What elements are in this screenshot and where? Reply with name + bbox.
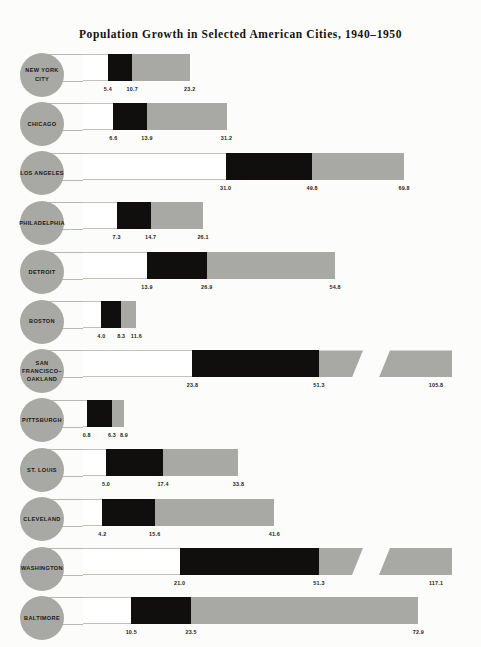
bar-segment-dark [87,400,112,427]
bar-segment-dark [147,252,207,279]
value-label: 6.6 [109,135,117,141]
city-label: DETROIT [29,268,56,276]
bar-segment-light [112,400,124,427]
bar-segment-light-before-break [319,548,363,575]
value-label: 49.8 [306,185,317,191]
value-label: 72.9 [413,629,424,635]
bar-segment-base [83,597,131,624]
bar-segment-light [207,252,335,279]
city-circle: NEW YORK CITY [20,53,64,97]
bar-segment-base [83,350,192,377]
bar-segment-light [163,449,238,476]
value-label: 13.9 [141,135,152,141]
city-label: PITTSBURGH [22,416,62,424]
value-label: 8.3 [117,333,125,339]
bar-segment-base [83,548,180,575]
city-label: CHICAGO [28,120,57,128]
city-circle: BALTIMORE [20,596,64,640]
value-label: 31.0 [220,185,231,191]
bar-segment-light-after-break [379,350,452,377]
value-label: 26.9 [201,284,212,290]
bar-segment-light [312,153,404,180]
bar-segment-base [83,301,101,328]
city-label: SAN FRANCISCO– OAKLAND [20,359,64,383]
value-label: 33.8 [233,481,244,487]
bar-segment-dark [113,103,147,130]
value-label: 5.4 [104,86,112,92]
value-label: 10.7 [127,86,138,92]
value-label: 54.8 [329,284,340,290]
value-label: 41.6 [269,531,280,537]
city-circle: CHICAGO [20,102,64,146]
bar-segment-base [83,153,226,180]
value-label: 26.1 [197,234,208,240]
bar-segment-base [83,103,113,130]
page-title: Population Growth in Selected American C… [0,28,481,40]
city-label: NEW YORK CITY [20,66,64,82]
bar-segment-base [83,252,147,279]
bar-segment-base [83,54,108,81]
city-label: WASHINGTON [21,564,63,572]
bar-segment-dark [192,350,319,377]
value-label: 23.5 [185,629,196,635]
city-label: LOS ANGELES [20,169,64,177]
value-label: 23.8 [187,382,198,388]
bar-segment-light [191,597,418,624]
value-label: 0.8 [83,432,91,438]
bar-segment-light [121,301,136,328]
value-label: 117.1 [429,580,443,586]
value-label: 31.2 [221,135,232,141]
value-label: 23.2 [184,86,195,92]
bar-segment-base [83,449,106,476]
bar-segment-light [132,54,190,81]
value-label: 6.3 [108,432,116,438]
value-label: 105.8 [429,382,444,388]
value-label: 51.3 [313,580,324,586]
bar-segment-dark [106,449,163,476]
value-label: 7.3 [113,234,121,240]
bar-segment-light [155,499,275,526]
city-label: PHILADELPHIA [19,219,65,227]
bar-segment-dark [131,597,191,624]
city-circle: PHILADELPHIA [20,201,64,245]
city-circle: BOSTON [20,300,64,344]
value-label: 14.7 [145,234,156,240]
city-circle: SAN FRANCISCO– OAKLAND [20,349,64,393]
value-label: 69.8 [398,185,409,191]
city-label: BALTIMORE [24,614,60,622]
bar-segment-light-before-break [319,350,363,377]
value-label: 4.0 [97,333,105,339]
bar-segment-base [83,499,102,526]
value-label: 10.5 [126,629,137,635]
bar-segment-dark [180,548,319,575]
value-label: 15.6 [149,531,160,537]
value-label: 5.0 [102,481,110,487]
city-circle: PITTSBURGH [20,398,64,442]
value-label: 17.4 [157,481,168,487]
bar-segment-base [83,202,117,229]
city-label: BOSTON [29,317,55,325]
value-label: 21.0 [174,580,185,586]
bar-segment-light [147,103,227,130]
value-label: 11.6 [131,333,142,339]
bar-segment-light [151,202,203,229]
bar-segment-light-after-break [379,548,452,575]
bar-segment-dark [108,54,132,81]
bar-segment-dark [117,202,151,229]
value-label: 13.9 [141,284,152,290]
city-circle: DETROIT [20,250,64,294]
bar-segment-dark [226,153,312,180]
bar-segment-dark [102,499,154,526]
value-label: 8.9 [120,432,128,438]
city-label: CLEVELAND [23,515,60,523]
city-label: ST. LOUIS [27,466,57,474]
city-circle: CLEVELAND [20,497,64,541]
chart-page: Population Growth in Selected American C… [0,0,481,647]
city-circle: ST. LOUIS [20,448,64,492]
city-circle: LOS ANGELES [20,151,64,195]
city-circle: WASHINGTON [20,547,64,591]
value-label: 4.2 [98,531,106,537]
value-label: 51.3 [313,382,324,388]
bar-segment-dark [101,301,121,328]
